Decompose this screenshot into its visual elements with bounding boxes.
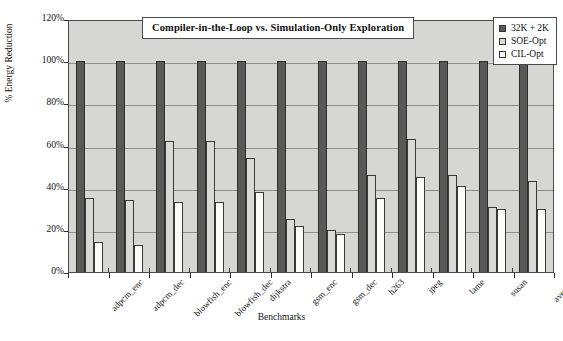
y-axis-tick-label: 120% (22, 14, 64, 24)
legend-label: 32K + 2K (511, 22, 549, 35)
bar-group (311, 21, 351, 272)
bar-group (271, 21, 311, 272)
bar (336, 234, 345, 272)
y-axis-tick-label: 40% (22, 183, 64, 193)
bar (197, 61, 206, 272)
legend-swatch-icon (499, 51, 506, 58)
chart-figure: % Energy Reduction 120%100%80%60%40%20%0… (0, 0, 563, 341)
bar (358, 61, 367, 272)
bar (488, 207, 497, 272)
x-axis-tick-label: gsm_enc (309, 277, 339, 307)
legend-swatch-icon (499, 25, 506, 32)
bar-group (432, 21, 472, 272)
bar (439, 61, 448, 272)
legend-item[interactable]: 32K + 2K (499, 22, 549, 35)
bar (76, 61, 85, 272)
bar-group (69, 21, 109, 272)
x-axis-tick-label: jpeg (426, 277, 444, 295)
bar (479, 61, 488, 272)
y-axis-tick-label: 100% (22, 56, 64, 66)
y-axis-tick-label: 0% (22, 267, 64, 277)
x-axis-tick-label: susan (508, 277, 529, 298)
bar (277, 61, 286, 272)
bar-group (392, 21, 432, 272)
bar (457, 186, 466, 272)
plot-area (68, 20, 554, 273)
bar-group (351, 21, 391, 272)
bar (206, 141, 215, 272)
bar (497, 209, 506, 272)
y-axis-tick-label: 20% (22, 225, 64, 235)
bar (367, 175, 376, 272)
legend-item[interactable]: SOE-Opt (499, 35, 549, 48)
bar (94, 242, 103, 272)
bar (318, 61, 327, 272)
bar (416, 177, 425, 272)
bar (407, 139, 416, 272)
bar (156, 61, 165, 272)
bar (215, 202, 224, 272)
bar (398, 61, 407, 272)
bar (85, 198, 94, 272)
bar (237, 61, 246, 272)
x-axis-tick-label: h263 (386, 277, 406, 297)
x-axis-tick-label: adpcm_enc (109, 277, 145, 313)
x-axis-tick-label: adpcm_dec (150, 277, 186, 313)
bar (286, 219, 295, 272)
x-axis-tick-labels: adpcm_encadpcm_decblowfish_encblowfish_d… (68, 273, 554, 339)
bars-layer (69, 21, 553, 272)
bar (165, 141, 174, 272)
bar (174, 202, 183, 272)
bar (255, 192, 264, 272)
bar (376, 198, 385, 272)
bar (519, 61, 528, 272)
legend-label: SOE-Opt (511, 35, 546, 48)
y-axis-tick-label: 80% (22, 98, 64, 108)
chart-title: Compiler-in-the-Loop vs. Simulation-Only… (142, 17, 414, 39)
x-axis-tick-label: gsm_dec (349, 277, 379, 307)
bar (246, 158, 255, 272)
legend-swatch-icon (499, 38, 506, 45)
bar-group (150, 21, 190, 272)
legend-label: CIL-Opt (511, 48, 544, 61)
chart-legend: 32K + 2KSOE-OptCIL-Opt (493, 17, 557, 65)
x-axis-tick-mark (554, 273, 555, 278)
y-axis-title: % Energy Reduction (4, 3, 14, 123)
legend-item[interactable]: CIL-Opt (499, 48, 549, 61)
bar (448, 175, 457, 272)
bar-group (109, 21, 149, 272)
bar (327, 230, 336, 272)
y-axis-tick-labels: 120%100%80%60%40%20%0% (18, 0, 64, 341)
bar (116, 61, 125, 272)
bar (125, 200, 134, 272)
bar (295, 226, 304, 272)
bar-group (190, 21, 230, 272)
x-axis-tick-label: average (551, 277, 563, 304)
bar (134, 245, 143, 272)
bar (528, 181, 537, 272)
x-axis-tick-label: lame (467, 277, 486, 296)
bar-group (230, 21, 270, 272)
x-axis-title: Benchmarks (0, 312, 563, 322)
y-axis-tick-label: 60% (22, 141, 64, 151)
bar (537, 209, 546, 272)
